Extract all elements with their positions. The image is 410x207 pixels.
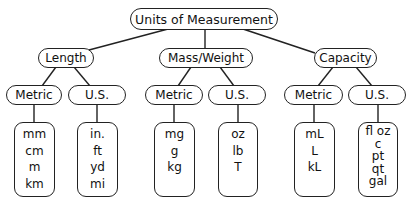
system-label: Metric	[155, 88, 192, 102]
unit: lb	[233, 143, 244, 160]
system-label: U.S.	[85, 88, 109, 102]
category-label: Mass/Weight	[168, 51, 244, 65]
unit: cm	[25, 143, 43, 160]
unit: m	[29, 159, 41, 176]
unit: mm	[23, 126, 46, 143]
unit: kL	[308, 159, 322, 176]
length-metric-node: Metric	[6, 85, 62, 105]
unit: km	[25, 176, 44, 193]
capacity-metric-units: mL L kL	[294, 122, 335, 197]
capacity-us-node: U.S.	[348, 85, 406, 105]
unit: in.	[90, 126, 105, 143]
category-mass-weight: Mass/Weight	[159, 48, 253, 68]
system-label: U.S.	[365, 88, 389, 102]
capacity-us-units: fl oz c pt qt gal	[358, 122, 398, 197]
category-capacity: Capacity	[314, 48, 377, 68]
unit: yd	[90, 159, 105, 176]
category-label: Length	[45, 51, 86, 65]
capacity-metric-node: Metric	[284, 85, 343, 105]
unit: oz	[231, 126, 245, 143]
unit: L	[311, 143, 318, 160]
unit: mg	[165, 126, 184, 143]
unit: mL	[305, 126, 323, 143]
mass-metric-node: Metric	[145, 85, 203, 105]
connector-lines	[0, 0, 410, 207]
mass-metric-units: mg g kg	[154, 122, 195, 197]
length-us-node: U.S.	[68, 85, 126, 105]
length-metric-units: mm cm m km	[14, 122, 55, 197]
unit: g	[171, 143, 179, 160]
unit: pt	[372, 150, 384, 163]
category-label: Capacity	[319, 51, 371, 65]
root-node: Units of Measurement	[130, 8, 278, 30]
unit: kg	[167, 159, 182, 176]
unit: mi	[90, 176, 105, 193]
unit: ft	[93, 143, 102, 160]
unit: fl oz	[365, 125, 390, 138]
root-label: Units of Measurement	[135, 12, 273, 27]
unit: T	[234, 159, 241, 176]
unit: gal	[369, 175, 387, 188]
category-length: Length	[38, 48, 94, 68]
mass-us-node: U.S.	[208, 85, 266, 105]
system-label: Metric	[15, 88, 52, 102]
mass-us-units: oz lb T	[218, 122, 258, 197]
system-label: Metric	[295, 88, 332, 102]
length-us-units: in. ft yd mi	[77, 122, 118, 197]
system-label: U.S.	[225, 88, 249, 102]
